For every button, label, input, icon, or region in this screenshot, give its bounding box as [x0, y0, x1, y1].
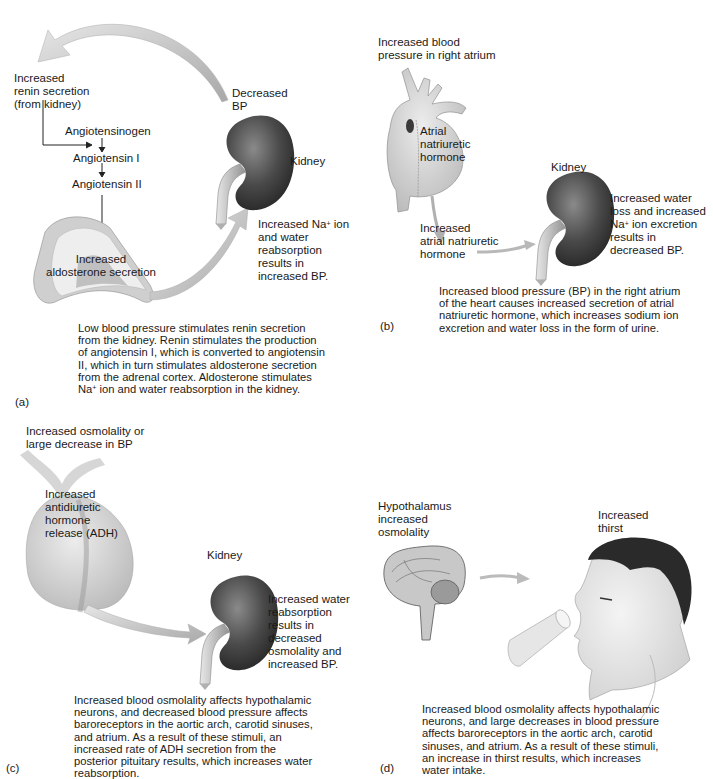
caption-a: Low blood pressure stimulates renin secr…: [78, 322, 325, 395]
kidney-label-a: Kidney: [290, 155, 325, 167]
atrium-stimulus-label: Increased blood pressure in right atrium: [378, 36, 496, 62]
increased-anh-label: Increased atrial natriuretic hormone: [420, 222, 499, 261]
brain-illustration: [384, 546, 465, 640]
kidney-illustration-a: [216, 115, 294, 230]
result-label-b: Increased water loss and increased Na+ i…: [610, 192, 706, 257]
kidney-illustration-c: [200, 575, 278, 690]
caption-b: Increased blood pressure (BP) in the rig…: [439, 285, 680, 334]
increased-thirst-label: Increased thirst: [598, 509, 649, 535]
panel-label-c: (c): [6, 762, 19, 774]
caption-d: Increased blood osmolality affects hypot…: [422, 703, 659, 776]
atrial-natriuretic-hormone-label: Atrial natriuretic hormone: [420, 125, 471, 164]
adh-to-kidney-arrow: [84, 605, 206, 644]
kidney-label-c: Kidney: [207, 549, 242, 561]
glass-illustration: [508, 607, 573, 666]
osmolality-stimulus-label: Increased osmolality or large decrease i…: [26, 425, 144, 451]
hypothalamus-label: Hypothalamus increased osmolality: [378, 500, 452, 539]
angiotensin-1-label: Angiotensin I: [73, 152, 140, 164]
panel-label-b: (b): [380, 320, 394, 332]
panel-label-a: (a): [15, 396, 29, 408]
kidney-illustration-b: [536, 171, 614, 286]
aldosterone-to-kidney-arrow: [150, 208, 248, 300]
adh-release-label: Increased antidiuretic hormone release (…: [45, 488, 118, 540]
aldosterone-label: Increased aldosterone secretion: [46, 253, 156, 279]
renin-secretion-label: Increased renin secretion (from kidney): [14, 72, 89, 111]
brain-to-thirst-arrow: [480, 572, 530, 584]
result-label-a: Increased Na+ ion and water reabsorption…: [258, 218, 349, 283]
decreased-bp-label: Decreased BP: [232, 87, 288, 113]
caption-c: Increased blood osmolality affects hypot…: [74, 694, 313, 779]
angiotensinogen-label: Angiotensinogen: [65, 125, 151, 137]
result-label-c: Increased water reabsorption results in …: [268, 593, 350, 671]
kidney-label-b: Kidney: [551, 161, 586, 173]
man-drinking-illustration: [574, 538, 692, 720]
angiotensin-2-label: Angiotensin II: [72, 178, 142, 190]
panel-label-d: (d): [380, 762, 394, 774]
